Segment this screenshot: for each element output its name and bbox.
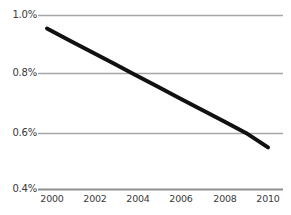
x-tick-label-2004: 2004	[116, 194, 160, 204]
x-tick-label-2002: 2002	[73, 194, 117, 204]
x-tick-label-2006: 2006	[159, 194, 203, 204]
x-tick-label-2010: 2010	[246, 194, 290, 204]
x-tick-label-2008: 2008	[203, 194, 247, 204]
x-axis-tick-labels: 2000 2002 2004 2006 2008 2010	[0, 0, 291, 215]
x-tick-label-2000: 2000	[30, 194, 74, 204]
line-chart: 1.0% 0.8% 0.6% 0.4% 2000 2002 2004 2006 …	[0, 0, 291, 215]
